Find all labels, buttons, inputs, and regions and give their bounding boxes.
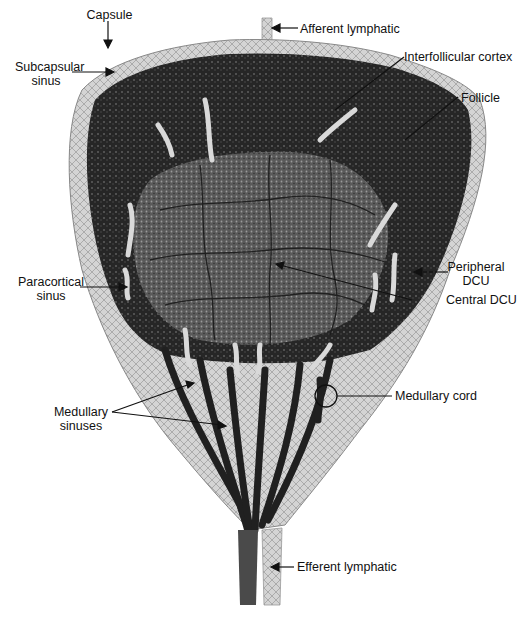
label-peripheral-dcu: Peripheral DCU (445, 260, 507, 288)
label-medullary-cord: Medullary cord (395, 389, 477, 403)
paracortex-central-dcu (133, 152, 388, 345)
label-central-dcu: Central DCU (446, 293, 517, 307)
label-subcapsular-sinus-line1: Subcapsular (15, 60, 77, 74)
label-afferent-lymphatic: Afferent lymphatic (300, 22, 400, 36)
label-medullary-sinuses-line1: Medullary (50, 405, 112, 419)
label-subcapsular-sinus: Subcapsular sinus (15, 60, 77, 88)
lymph-node-diagram: Capsule Afferent lymphatic Subcapsular s… (0, 0, 530, 621)
afferent-lymphatic-vessel (262, 18, 272, 42)
label-peripheral-dcu-line1: Peripheral (445, 260, 507, 274)
label-paracortical-sinus-line2: sinus (15, 289, 87, 303)
label-medullary-sinuses: Medullary sinuses (50, 405, 112, 433)
label-subcapsular-sinus-line2: sinus (15, 74, 77, 88)
label-paracortical-sinus: Paracortical sinus (15, 275, 87, 303)
label-interfollicular-cortex: Interfollicular cortex (404, 50, 512, 64)
label-medullary-sinuses-line2: sinuses (50, 419, 112, 433)
label-capsule: Capsule (82, 8, 137, 22)
label-follicle: Follicle (461, 91, 500, 105)
lymph-node-illustration (0, 0, 530, 621)
label-efferent-lymphatic: Efferent lymphatic (297, 560, 397, 574)
label-paracortical-sinus-line1: Paracortical (15, 275, 87, 289)
hilar-blood-vessel (238, 530, 258, 605)
label-peripheral-dcu-line2: DCU (445, 274, 507, 288)
